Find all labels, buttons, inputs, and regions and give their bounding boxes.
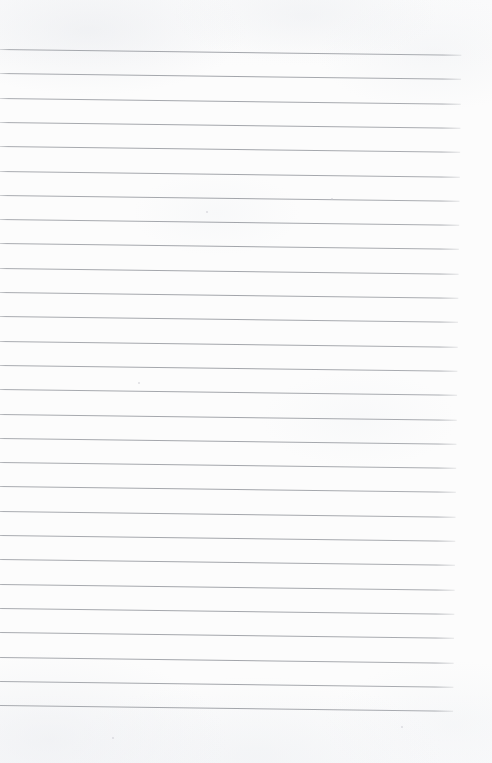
rule-line bbox=[0, 438, 456, 445]
rule-line bbox=[0, 243, 459, 250]
rule-line bbox=[0, 316, 458, 323]
rule-line bbox=[0, 535, 455, 542]
rule-line bbox=[0, 608, 454, 615]
rule-line bbox=[0, 49, 461, 56]
rule-line bbox=[0, 146, 460, 153]
rule-line bbox=[0, 462, 456, 469]
rule-line bbox=[0, 122, 460, 129]
rule-line bbox=[0, 98, 461, 105]
rule-line bbox=[0, 195, 460, 202]
rule-line bbox=[0, 219, 459, 226]
rule-line bbox=[0, 632, 454, 639]
rule-line bbox=[0, 705, 453, 712]
scanned-page bbox=[0, 0, 492, 763]
ruled-lines-group bbox=[0, 0, 492, 763]
rule-line bbox=[0, 365, 457, 372]
rule-line bbox=[0, 584, 455, 591]
rule-line bbox=[0, 341, 458, 348]
rule-line bbox=[0, 73, 461, 80]
rule-line bbox=[0, 413, 457, 420]
rule-line bbox=[0, 656, 454, 663]
rule-line bbox=[0, 486, 456, 493]
rule-line bbox=[0, 681, 453, 688]
rule-line bbox=[0, 559, 455, 566]
rule-line bbox=[0, 268, 459, 275]
rule-line bbox=[0, 389, 457, 396]
rule-line bbox=[0, 170, 460, 177]
rule-line bbox=[0, 292, 458, 299]
rule-line bbox=[0, 511, 456, 518]
